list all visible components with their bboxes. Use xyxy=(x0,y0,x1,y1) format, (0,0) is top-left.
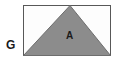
triangle-area-label: A xyxy=(66,31,73,41)
geometry-figure-canvas: A G xyxy=(0,0,121,64)
figure-label-g: G xyxy=(6,39,15,51)
geometry-figure-svg xyxy=(0,0,121,64)
